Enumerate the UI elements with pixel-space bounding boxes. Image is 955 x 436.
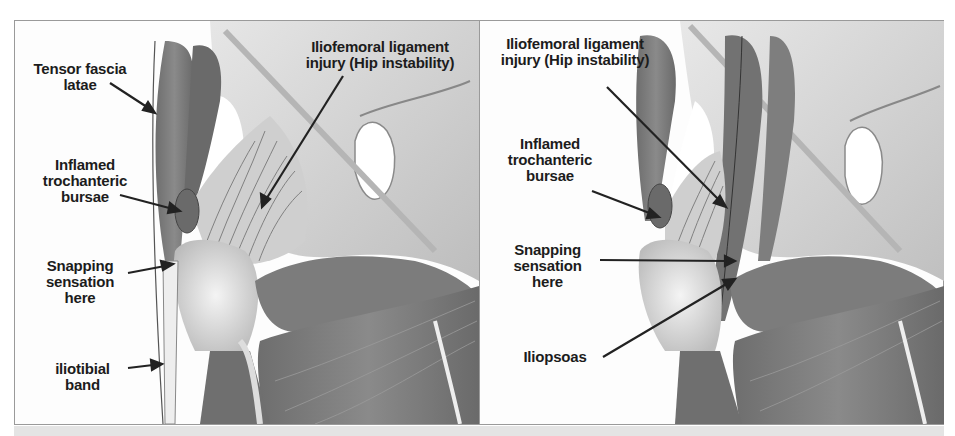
panel-left-snapping-hip-lateral: Tensor fascia latae Iliofemoral ligament…	[15, 21, 480, 424]
greater-trochanter	[639, 240, 722, 351]
trochanteric-bursa	[648, 184, 672, 228]
label-snapping-sensation: Snapping sensation here	[505, 242, 590, 290]
greater-trochanter	[174, 240, 258, 351]
label-iliotibial-band: iliotibial band	[40, 361, 125, 393]
bottom-border-strip	[14, 426, 944, 436]
panel-right-snapping-hip-anterior: Iliofemoral ligament injury (Hip instabi…	[480, 21, 944, 424]
label-inflamed-trochanteric-bursae: Inflamed trochanteric bursae	[35, 157, 135, 205]
vastus-muscle	[675, 351, 742, 424]
label-iliofemoral-ligament-injury: Iliofemoral ligament injury (Hip instabi…	[490, 36, 660, 68]
label-iliopsoas: Iliopsoas	[510, 349, 600, 365]
label-tensor-fascia-latae: Tensor fascia latae	[25, 61, 135, 93]
iliotibial-band	[163, 261, 178, 424]
obturator-foramen	[845, 127, 882, 204]
label-inflamed-trochanteric-bursae: Inflamed trochanteric bursae	[500, 136, 600, 184]
label-snapping-sensation: Snapping sensation here	[35, 258, 125, 306]
figure-frame: Tensor fascia latae Iliofemoral ligament…	[14, 20, 944, 425]
label-iliofemoral-ligament-injury: Iliofemoral ligament injury (Hip instabi…	[285, 39, 475, 71]
